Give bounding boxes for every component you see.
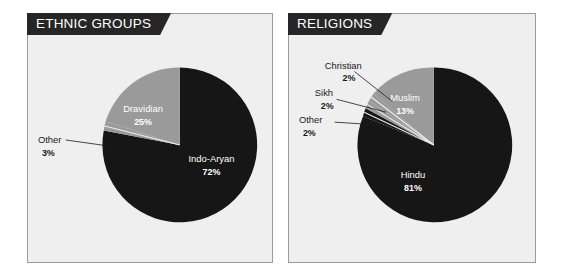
pie-chart-ethnic-groups: Dravidian 25% Indo-Aryan 72% Other 3% (28, 14, 272, 262)
infographic-root: Dravidian 25% Indo-Aryan 72% Other 3% ET… (0, 0, 562, 276)
slice-label-hindu-pct: 81% (404, 183, 422, 193)
slice-label-dravidian-name: Dravidian (123, 103, 163, 114)
slice-label-muslim-pct: 13% (396, 106, 414, 116)
callout-label-christian-name: Christian (325, 60, 362, 71)
slice-label-muslim-name: Muslim (390, 92, 420, 103)
panel-religions: Muslim 13% Hindu 81% Christian 2% Sikh 2… (288, 13, 536, 263)
callout-label-other-name: Other (299, 114, 323, 125)
panel-title-ethnic-groups: ETHNIC GROUPS (27, 13, 171, 35)
panel-title-ethnic-wrap: ETHNIC GROUPS (27, 13, 171, 35)
panel-title-religions: RELIGIONS (288, 13, 392, 35)
callout-label-other-pct: 3% (42, 148, 55, 158)
slice-label-indo-aryan-name: Indo-Aryan (188, 153, 234, 164)
slice-label-indo-aryan-pct: 72% (203, 167, 221, 177)
callout-label-other-name: Other (38, 134, 62, 145)
panel-title-religions-wrap: RELIGIONS (288, 13, 392, 35)
panel-ethnic-groups: Dravidian 25% Indo-Aryan 72% Other 3% ET… (27, 13, 273, 263)
callout-label-christian-pct: 2% (343, 73, 356, 83)
callout-label-sikh-name: Sikh (315, 87, 333, 98)
pie-chart-religions: Muslim 13% Hindu 81% Christian 2% Sikh 2… (289, 14, 535, 262)
slice-label-hindu-name: Hindu (401, 169, 426, 180)
callout-label-sikh-pct: 2% (321, 101, 334, 111)
callout-label-other-pct: 2% (303, 128, 316, 138)
slice-label-dravidian-pct: 25% (134, 117, 152, 127)
